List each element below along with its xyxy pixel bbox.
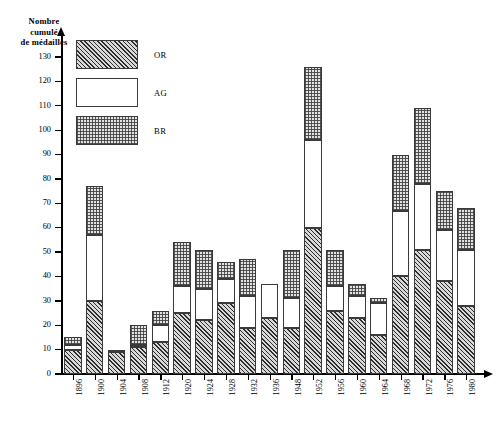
bar-segment-or[interactable] bbox=[370, 335, 387, 374]
bar-segment-ag[interactable] bbox=[304, 140, 321, 228]
x-tick bbox=[401, 374, 402, 380]
bar-stack[interactable] bbox=[457, 57, 474, 374]
bar-segment-br[interactable] bbox=[173, 242, 190, 286]
bar-segment-br[interactable] bbox=[414, 108, 431, 184]
bar-segment-br[interactable] bbox=[392, 155, 409, 211]
y-tick bbox=[55, 325, 62, 326]
y-tick-label: 20 bbox=[7, 321, 51, 329]
bar-segment-or[interactable] bbox=[414, 250, 431, 374]
bar-segment-or[interactable] bbox=[64, 350, 81, 374]
bar-segment-br[interactable] bbox=[326, 250, 343, 287]
bar-segment-ag[interactable] bbox=[130, 345, 147, 347]
bar-segment-or[interactable] bbox=[326, 311, 343, 374]
y-tick-label: 100 bbox=[7, 126, 51, 134]
x-tick-label: 1936 bbox=[273, 379, 281, 395]
y-tick-label: 110 bbox=[7, 102, 51, 110]
bar-segment-ag[interactable] bbox=[64, 345, 81, 350]
bar-segment-or[interactable] bbox=[304, 228, 321, 374]
bar-segment-br[interactable] bbox=[348, 284, 365, 296]
bar-segment-or[interactable] bbox=[108, 352, 125, 374]
bar-segment-or[interactable] bbox=[392, 276, 409, 374]
x-tick-label: 1968 bbox=[404, 379, 412, 395]
bar-segment-ag[interactable] bbox=[414, 184, 431, 250]
x-tick-label: 1928 bbox=[229, 379, 237, 395]
y-tick-label: 50 bbox=[7, 248, 51, 256]
bar-segment-ag[interactable] bbox=[261, 284, 278, 318]
bar-stack[interactable] bbox=[261, 57, 278, 374]
bar-stack[interactable] bbox=[304, 57, 321, 374]
bar-stack[interactable] bbox=[239, 57, 256, 374]
bar-segment-ag[interactable] bbox=[457, 250, 474, 306]
bar-segment-or[interactable] bbox=[130, 347, 147, 374]
bar-stack[interactable] bbox=[152, 57, 169, 374]
bar-stack[interactable] bbox=[392, 57, 409, 374]
y-tick-label: 130 bbox=[7, 53, 51, 61]
y-tick-label: 120 bbox=[7, 77, 51, 85]
bar-segment-ag[interactable] bbox=[283, 298, 300, 327]
x-tick bbox=[270, 374, 271, 380]
bar-segment-br[interactable] bbox=[195, 250, 212, 289]
bar-segment-br[interactable] bbox=[370, 298, 387, 303]
bar-segment-br[interactable] bbox=[239, 259, 256, 296]
bar-segment-or[interactable] bbox=[152, 342, 169, 374]
y-tick bbox=[55, 276, 62, 277]
bar-stack[interactable] bbox=[436, 57, 453, 374]
bar-stack[interactable] bbox=[414, 57, 431, 374]
bar-segment-ag[interactable] bbox=[173, 286, 190, 313]
bar-segment-ag[interactable] bbox=[326, 286, 343, 310]
x-tick-label: 1956 bbox=[338, 379, 346, 395]
y-tick bbox=[55, 300, 62, 301]
bar-segment-or[interactable] bbox=[217, 303, 234, 374]
bar-stack[interactable] bbox=[370, 57, 387, 374]
bar-segment-br[interactable] bbox=[304, 67, 321, 140]
bar-segment-or[interactable] bbox=[86, 301, 103, 374]
x-tick bbox=[226, 374, 227, 380]
bar-stack[interactable] bbox=[348, 57, 365, 374]
x-tick bbox=[248, 374, 249, 380]
bar-segment-or[interactable] bbox=[173, 313, 190, 374]
bar-segment-ag[interactable] bbox=[348, 296, 365, 318]
y-axis-title-line-2: cumulé bbox=[8, 27, 80, 38]
bar-segment-ag[interactable] bbox=[217, 279, 234, 303]
bar-stack[interactable] bbox=[195, 57, 212, 374]
bar-segment-br[interactable] bbox=[130, 325, 147, 345]
bar-segment-or[interactable] bbox=[283, 328, 300, 374]
bar-segment-br[interactable] bbox=[86, 186, 103, 235]
bar-segment-or[interactable] bbox=[436, 281, 453, 374]
bar-segment-ag[interactable] bbox=[392, 211, 409, 277]
bar-segment-or[interactable] bbox=[239, 328, 256, 374]
bar-segment-or[interactable] bbox=[348, 318, 365, 374]
y-axis-title-line-3: de médailles bbox=[8, 37, 80, 48]
bar-segment-br[interactable] bbox=[457, 208, 474, 249]
bar-segment-ag[interactable] bbox=[86, 235, 103, 301]
bar-segment-br[interactable] bbox=[283, 250, 300, 299]
x-tick-label: 1960 bbox=[360, 379, 368, 395]
bar-segment-br[interactable] bbox=[217, 262, 234, 279]
bar-segment-ag[interactable] bbox=[436, 230, 453, 281]
chart-root: Nombre cumulé de médailles 0102030405060… bbox=[0, 0, 499, 427]
x-tick-label: 1904 bbox=[120, 379, 128, 395]
bar-segment-or[interactable] bbox=[261, 318, 278, 374]
bar-segment-or[interactable] bbox=[457, 306, 474, 374]
x-tick bbox=[138, 374, 139, 380]
bar-stack[interactable] bbox=[217, 57, 234, 374]
bar-segment-br[interactable] bbox=[436, 191, 453, 230]
bar-stack[interactable] bbox=[283, 57, 300, 374]
bar-stack[interactable] bbox=[173, 57, 190, 374]
bar-segment-ag[interactable] bbox=[195, 289, 212, 321]
x-tick bbox=[73, 374, 74, 380]
y-tick bbox=[55, 227, 62, 228]
bar-segment-or[interactable] bbox=[195, 320, 212, 374]
bar-stack[interactable] bbox=[326, 57, 343, 374]
bar-segment-ag[interactable] bbox=[370, 303, 387, 335]
bar-segment-ag[interactable] bbox=[239, 296, 256, 328]
y-tick bbox=[55, 349, 62, 350]
x-tick bbox=[95, 374, 96, 380]
y-tick bbox=[55, 178, 62, 179]
bar-segment-br[interactable] bbox=[108, 350, 125, 352]
bar-segment-br[interactable] bbox=[152, 311, 169, 326]
x-tick-label: 1924 bbox=[207, 379, 215, 395]
bar-segment-ag[interactable] bbox=[152, 325, 169, 342]
x-tick-label: 1976 bbox=[447, 379, 455, 395]
bar-segment-br[interactable] bbox=[64, 337, 81, 344]
